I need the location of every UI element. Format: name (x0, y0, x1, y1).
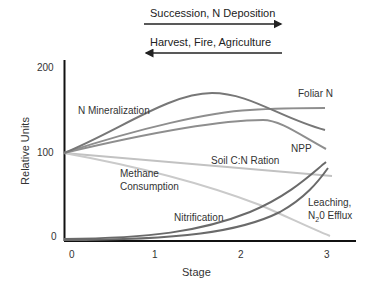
x-tick-2: 2 (238, 249, 244, 260)
label-npp: NPP (291, 143, 312, 154)
series-npp (64, 120, 326, 153)
label-nitrification: Nitrification (174, 212, 223, 223)
y-tick-0: 0 (51, 231, 57, 242)
series-methane (64, 153, 330, 236)
x-tick-0: 0 (69, 249, 75, 260)
label-methane-2: Consumption (120, 181, 179, 192)
y-tick-200: 200 (37, 62, 54, 73)
forward-arrow-label: Succession, N Deposition (150, 7, 275, 19)
label-leaching-2: N20 Efflux (308, 210, 352, 223)
y-axis-label: Relative Units (19, 117, 31, 185)
x-tick-3: 3 (324, 249, 330, 260)
series-nitrification (64, 162, 326, 239)
y-tick-100: 100 (37, 147, 54, 158)
x-tick-1: 1 (152, 249, 158, 260)
label-leaching-1: Leaching, (308, 197, 351, 208)
label-soil-cn: Soil C:N Ration (211, 155, 279, 166)
x-axis-label: Stage (182, 266, 211, 278)
label-n-mineralization: N Mineralization (78, 105, 150, 116)
leaching-rest: 0 Efflux (319, 210, 352, 221)
label-methane-1: Methane (120, 168, 159, 179)
backward-arrow-label: Harvest, Fire, Agriculture (150, 36, 271, 48)
series-soil-cn (64, 153, 332, 176)
label-foliar-n: Foliar N (298, 88, 333, 99)
